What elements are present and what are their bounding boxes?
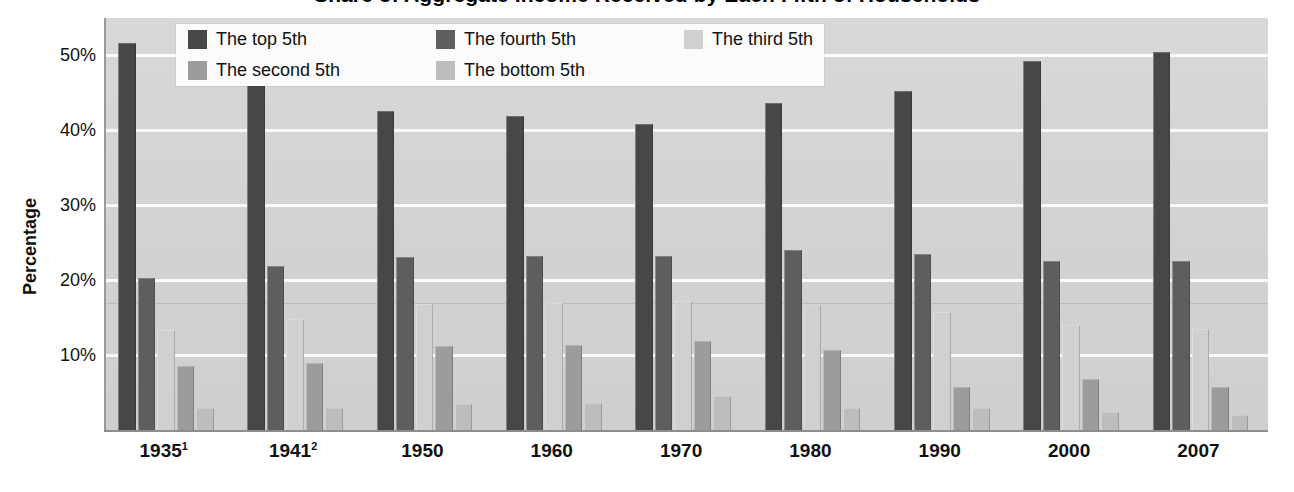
bar xyxy=(196,408,214,430)
bar xyxy=(1192,329,1210,430)
chart-legend: The top 5thThe second 5thThe fourth 5thT… xyxy=(176,24,824,86)
legend-swatch-icon xyxy=(188,30,207,49)
bar xyxy=(1062,325,1080,430)
legend-swatch-icon xyxy=(436,30,455,49)
bar xyxy=(635,124,653,430)
bar xyxy=(177,366,195,430)
x-tick-label: 1950 xyxy=(401,440,443,462)
bar xyxy=(933,312,951,430)
y-tick-label-20: 20% xyxy=(60,270,96,291)
bar xyxy=(396,257,414,430)
bar xyxy=(1231,415,1249,430)
x-axis-line xyxy=(104,430,1268,432)
legend-swatch-icon xyxy=(188,61,207,80)
legend-swatch-icon xyxy=(684,30,703,49)
bar xyxy=(843,408,861,430)
bar xyxy=(1153,52,1171,430)
bar xyxy=(914,254,932,430)
y-tick-label-50: 50% xyxy=(60,45,96,66)
bar xyxy=(247,64,265,430)
bar xyxy=(267,266,285,430)
legend-label: The fourth 5th xyxy=(464,29,576,50)
bar xyxy=(1101,412,1119,430)
bar xyxy=(655,256,673,430)
x-tick-label: 19351 xyxy=(140,440,188,462)
bar xyxy=(545,303,563,430)
bar xyxy=(784,250,802,430)
x-axis-tick-labels: 19351194121950196019701980199020002007 xyxy=(104,434,1268,474)
bar-group xyxy=(882,18,1011,432)
bar xyxy=(325,408,343,430)
legend-item[interactable]: The top 5th xyxy=(188,24,436,55)
bar xyxy=(584,403,602,430)
legend-label: The second 5th xyxy=(216,60,340,81)
chart-title: Share of Aggregate Income Received by Ea… xyxy=(314,0,980,7)
bar xyxy=(674,301,692,430)
legend-label: The top 5th xyxy=(216,29,307,50)
legend-label: The bottom 5th xyxy=(464,60,585,81)
bar-group xyxy=(1141,18,1268,432)
y-axis-title: Percentage xyxy=(18,0,44,492)
bar xyxy=(377,111,395,430)
y-axis-title-text: Percentage xyxy=(21,197,42,294)
bar xyxy=(306,363,324,430)
bar xyxy=(1023,61,1041,430)
y-tick-label-30: 30% xyxy=(60,195,96,216)
x-tick-label: 1970 xyxy=(660,440,702,462)
legend-label: The third 5th xyxy=(712,29,813,50)
x-tick-label: 19412 xyxy=(269,440,317,462)
bar xyxy=(416,304,434,430)
bar xyxy=(455,404,473,430)
legend-item[interactable]: The third 5th xyxy=(684,24,813,55)
legend-item[interactable]: The fourth 5th xyxy=(436,24,684,55)
bar xyxy=(565,345,583,430)
x-tick-label: 1980 xyxy=(789,440,831,462)
bar xyxy=(1211,387,1229,430)
x-tick-label: 1960 xyxy=(531,440,573,462)
y-tick-label-10: 10% xyxy=(60,345,96,366)
bar xyxy=(118,43,136,430)
bar xyxy=(823,350,841,430)
bar xyxy=(506,116,524,430)
bar xyxy=(804,305,822,430)
x-tick-label: 2007 xyxy=(1177,440,1219,462)
bar xyxy=(1043,261,1061,430)
bar xyxy=(157,330,175,430)
x-tick-label: 2000 xyxy=(1048,440,1090,462)
bar-group xyxy=(1011,18,1140,432)
bar xyxy=(138,278,156,430)
bar xyxy=(694,341,712,430)
bar xyxy=(286,319,304,430)
bar xyxy=(713,396,731,430)
legend-item[interactable]: The second 5th xyxy=(188,55,436,86)
y-axis-tick-labels: 10%20%30%40%50% xyxy=(44,0,100,492)
bar xyxy=(894,91,912,430)
chart-title-clipped: Share of Aggregate Income Received by Ea… xyxy=(0,0,1294,12)
bar xyxy=(1082,379,1100,430)
x-tick-label: 1990 xyxy=(919,440,961,462)
bar xyxy=(972,408,990,430)
legend-swatch-icon xyxy=(436,61,455,80)
y-tick-label-40: 40% xyxy=(60,120,96,141)
legend-item[interactable]: The bottom 5th xyxy=(436,55,684,86)
bar xyxy=(1172,261,1190,430)
chart-figure: Share of Aggregate Income Received by Ea… xyxy=(0,0,1294,492)
bar xyxy=(765,103,783,430)
bar xyxy=(953,387,971,430)
bar xyxy=(526,256,544,430)
bar xyxy=(435,346,453,430)
